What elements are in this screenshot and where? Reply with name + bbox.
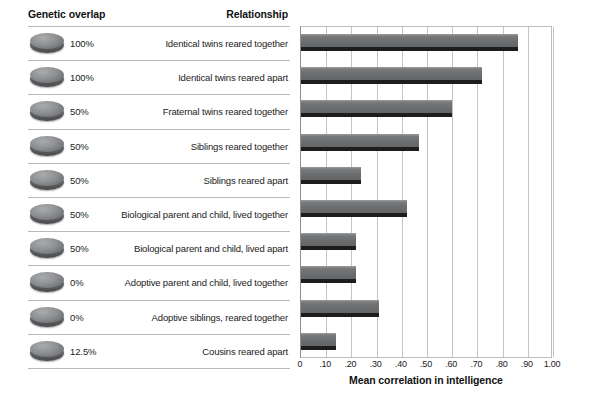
table-row: 100%Identical twins reared together	[28, 26, 290, 60]
table-row: 50%Siblings reared together	[28, 129, 290, 163]
gridline	[553, 27, 554, 357]
relationship-table: Genetic overlap Relationship 100%Identic…	[0, 0, 296, 392]
bar	[301, 67, 482, 84]
table-row: 12.5%Cousins reared apart	[28, 334, 290, 369]
x-tick-label: .80	[496, 359, 508, 369]
bar	[301, 134, 419, 151]
genetic-overlap-value: 0%	[70, 312, 84, 323]
relationship-label: Identical twins reared apart	[178, 72, 288, 83]
table-row: 50%Siblings reared apart	[28, 163, 290, 197]
genetic-overlap-value: 100%	[70, 38, 94, 49]
genetic-overlap-value: 50%	[70, 209, 89, 220]
bar-row	[301, 93, 553, 126]
table-row: 50%Biological parent and child, lived to…	[28, 197, 290, 231]
x-tick-label: .40	[395, 359, 407, 369]
genetic-overlap-value: 50%	[70, 106, 89, 117]
x-tick-label: .60	[445, 359, 457, 369]
plot-area	[300, 26, 552, 358]
genetic-overlap-value: 100%	[70, 72, 94, 83]
genetic-overlap-disc-icon	[30, 33, 64, 54]
bar	[301, 333, 336, 350]
bar	[301, 233, 356, 250]
bar-row	[301, 293, 553, 326]
genetic-overlap-value: 50%	[70, 141, 89, 152]
genetic-overlap-disc-icon	[30, 67, 64, 88]
relationship-label: Fraternal twins reared together	[163, 106, 288, 117]
genetic-overlap-disc-icon	[30, 101, 64, 122]
genetic-overlap-disc-icon	[30, 204, 64, 225]
x-tick-label: 1.00	[544, 359, 561, 369]
x-tick-label: .20	[344, 359, 356, 369]
x-tick-label: .70	[470, 359, 482, 369]
relationship-label: Siblings reared together	[191, 141, 288, 152]
relationship-label: Identical twins reared together	[165, 38, 288, 49]
genetic-overlap-correlation-figure: Genetic overlap Relationship 100%Identic…	[0, 0, 591, 420]
genetic-overlap-value: 50%	[70, 175, 89, 186]
table-row: 100%Identical twins reared apart	[28, 60, 290, 94]
x-tick-label: .50	[420, 359, 432, 369]
relationship-label: Biological parent and child, lived apart	[134, 243, 288, 254]
x-axis-label: Mean correlation in intelligence	[300, 374, 552, 386]
table-body: 100%Identical twins reared together100%I…	[28, 26, 290, 369]
relationship-label: Adoptive siblings, reared together	[152, 312, 288, 323]
bar	[301, 167, 361, 184]
table-row: 50%Fraternal twins reared together	[28, 94, 290, 128]
bar-row	[301, 326, 553, 359]
bar-chart: 0.10.20.30.40.50.60.70.80.901.00 Mean co…	[296, 0, 591, 420]
bar-row	[301, 60, 553, 93]
x-tick-label: 0	[298, 359, 303, 369]
bar-row	[301, 226, 553, 259]
table-column-headers: Genetic overlap Relationship	[28, 8, 290, 26]
genetic-overlap-value: 50%	[70, 243, 89, 254]
genetic-overlap-value: 0%	[70, 277, 84, 288]
relationship-label: Cousins reared apart	[202, 346, 288, 357]
bar	[301, 266, 356, 283]
bar	[301, 200, 407, 217]
genetic-overlap-disc-icon	[30, 136, 64, 157]
x-tick-label: .10	[319, 359, 331, 369]
genetic-overlap-disc-icon	[30, 272, 64, 293]
relationship-label: Siblings reared apart	[203, 175, 288, 186]
table-row: 50%Biological parent and child, lived ap…	[28, 231, 290, 265]
genetic-overlap-value: 12.5%	[70, 346, 96, 357]
genetic-overlap-disc-icon	[30, 307, 64, 328]
bar-row	[301, 127, 553, 160]
relationship-label: Biological parent and child, lived toget…	[121, 209, 288, 220]
bar	[301, 100, 452, 117]
column-header-genetic-overlap: Genetic overlap	[28, 8, 105, 20]
column-header-relationship: Relationship	[226, 8, 288, 20]
bar-row	[301, 160, 553, 193]
bar	[301, 300, 379, 317]
bar	[301, 34, 518, 51]
x-tick-label: .30	[370, 359, 382, 369]
table-row: 0%Adoptive siblings, reared together	[28, 300, 290, 334]
bar-row	[301, 259, 553, 292]
genetic-overlap-disc-icon	[30, 170, 64, 191]
x-tick-label: .90	[521, 359, 533, 369]
relationship-label: Adoptive parent and child, lived togethe…	[125, 277, 288, 288]
genetic-overlap-disc-icon	[30, 238, 64, 259]
bar-row	[301, 193, 553, 226]
x-axis: 0.10.20.30.40.50.60.70.80.901.00	[300, 358, 552, 374]
table-row: 0%Adoptive parent and child, lived toget…	[28, 265, 290, 299]
genetic-overlap-disc-icon	[30, 341, 64, 362]
bar-row	[301, 27, 553, 60]
